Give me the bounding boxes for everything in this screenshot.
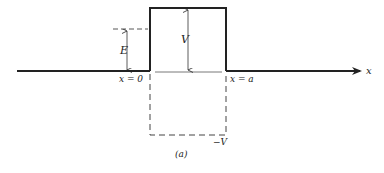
potential-well-dashed <box>150 74 226 135</box>
well-depth-label: −V <box>213 137 229 147</box>
left-edge-label: x = 0 <box>119 74 143 84</box>
axis-label: x <box>366 65 372 76</box>
figure-caption: (a) <box>175 149 188 159</box>
right-edge-label: x = a <box>230 74 254 84</box>
potential-barrier-diagram: E V x = 0 x = a x −V (a) <box>0 0 384 173</box>
energy-label: E <box>119 44 128 57</box>
barrier-height-label: V <box>181 33 190 46</box>
